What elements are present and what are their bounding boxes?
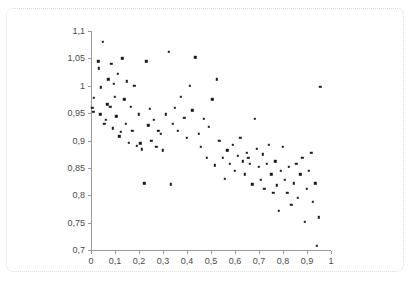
data-point: [293, 182, 295, 184]
data-point: [319, 86, 321, 88]
x-tick-mark: [283, 251, 284, 254]
x-tick-label: 0,5: [205, 257, 218, 266]
data-point: [316, 244, 318, 246]
data-point: [239, 137, 241, 139]
y-tick-label: 0,9: [51, 136, 85, 145]
x-tick-mark: [331, 251, 332, 254]
y-tick-mark: [88, 168, 91, 169]
data-point: [276, 184, 278, 186]
data-point: [150, 139, 152, 141]
data-point: [115, 115, 117, 117]
data-point: [270, 173, 272, 175]
data-point: [111, 127, 113, 129]
data-point: [125, 123, 127, 125]
data-point: [258, 166, 260, 168]
data-point: [312, 201, 314, 203]
x-tick-mark: [307, 251, 308, 254]
data-point: [253, 117, 255, 119]
y-tick-label: 0,85: [51, 163, 85, 172]
y-tick-label: 1,05: [51, 54, 85, 63]
data-point: [317, 216, 319, 218]
data-point: [98, 67, 100, 69]
data-point: [274, 160, 276, 162]
scatter-plot: 0,70,750,80,850,90,9511,051,1 00,10,20,3…: [0, 0, 412, 281]
data-point: [99, 86, 101, 88]
data-point: [147, 124, 149, 126]
data-point: [314, 182, 316, 184]
data-point: [123, 98, 125, 100]
data-point: [141, 148, 143, 150]
data-point: [197, 133, 199, 135]
data-point: [92, 111, 94, 113]
data-point: [211, 98, 213, 100]
data-point: [157, 129, 159, 131]
x-tick-label: 0,4: [181, 257, 194, 266]
x-tick-label: 0,7: [253, 257, 266, 266]
data-point: [218, 139, 220, 141]
data-point: [265, 162, 267, 164]
data-point: [126, 80, 128, 82]
y-tick-label: 1: [51, 81, 85, 90]
data-point: [251, 183, 253, 185]
data-point: [249, 162, 251, 164]
data-point: [260, 179, 262, 181]
data-point: [286, 191, 288, 193]
data-point: [213, 164, 215, 166]
data-point: [121, 57, 123, 59]
x-tick-mark: [115, 251, 116, 254]
data-point: [226, 149, 228, 151]
data-point: [102, 41, 104, 43]
data-point: [138, 113, 140, 115]
data-point: [153, 118, 155, 120]
y-tick-label: 0,8: [51, 191, 85, 200]
data-point: [133, 85, 135, 87]
x-tick-label: 0: [88, 257, 93, 266]
x-tick-label: 0,8: [277, 257, 290, 266]
x-tick-label: 0,2: [133, 257, 146, 266]
data-point: [224, 178, 226, 180]
data-point: [194, 56, 196, 58]
data-point: [208, 126, 210, 128]
y-tick-mark: [88, 113, 91, 114]
y-tick-mark: [88, 223, 91, 224]
data-point: [237, 155, 239, 157]
data-point: [299, 173, 301, 175]
x-tick-mark: [187, 251, 188, 254]
data-point: [268, 144, 270, 146]
y-tick-label: 0,95: [51, 109, 85, 118]
data-point: [200, 146, 202, 148]
data-point: [168, 51, 170, 53]
data-point: [169, 183, 171, 185]
x-tick-mark: [91, 251, 92, 254]
y-tick-mark: [88, 141, 91, 142]
data-point: [162, 149, 164, 151]
data-point: [117, 73, 119, 75]
data-point: [135, 145, 137, 147]
data-point: [189, 85, 191, 87]
data-point: [109, 105, 111, 107]
data-point: [110, 63, 112, 65]
data-point: [131, 129, 133, 131]
y-axis-spine: [91, 31, 92, 250]
data-point: [91, 106, 93, 108]
data-point: [272, 191, 274, 193]
data-point: [105, 118, 107, 120]
data-point: [171, 123, 173, 125]
x-tick-label: 0,9: [301, 257, 314, 266]
data-point: [118, 135, 120, 137]
data-point: [280, 169, 282, 171]
x-tick-mark: [139, 251, 140, 254]
data-point: [186, 137, 188, 139]
data-point: [261, 153, 263, 155]
data-point: [205, 157, 207, 159]
data-point: [114, 95, 116, 97]
data-point: [290, 204, 292, 206]
data-point: [308, 169, 310, 171]
data-point: [120, 131, 122, 133]
data-point: [155, 146, 157, 148]
data-point: [97, 60, 99, 62]
data-point: [301, 157, 303, 159]
data-point: [129, 105, 131, 107]
data-point: [306, 187, 308, 189]
data-point: [203, 117, 205, 119]
